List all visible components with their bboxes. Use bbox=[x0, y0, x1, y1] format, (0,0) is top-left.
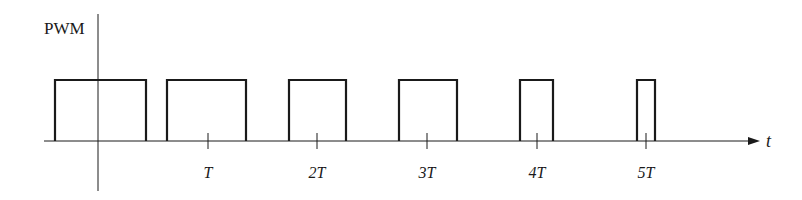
pulse-2 bbox=[167, 80, 246, 141]
pulse-5 bbox=[520, 80, 553, 141]
pulse-4 bbox=[399, 80, 457, 141]
pwm-diagram: PWM t T 2T 3T 4T 5T bbox=[0, 0, 802, 200]
x-axis-label: t bbox=[766, 131, 772, 151]
y-axis-label: PWM bbox=[44, 19, 85, 38]
x-axis-arrow-icon bbox=[748, 137, 760, 145]
pwm-waveform bbox=[55, 80, 655, 141]
tick-label-4T: 4T bbox=[529, 164, 547, 181]
pulse-3 bbox=[289, 80, 346, 141]
pulse-1 bbox=[55, 80, 146, 141]
tick-label-3T: 3T bbox=[418, 164, 437, 181]
pulse-6 bbox=[637, 80, 655, 141]
tick-label-T: T bbox=[204, 164, 214, 181]
tick-label-2T: 2T bbox=[309, 164, 327, 181]
tick-label-5T: 5T bbox=[638, 164, 656, 181]
